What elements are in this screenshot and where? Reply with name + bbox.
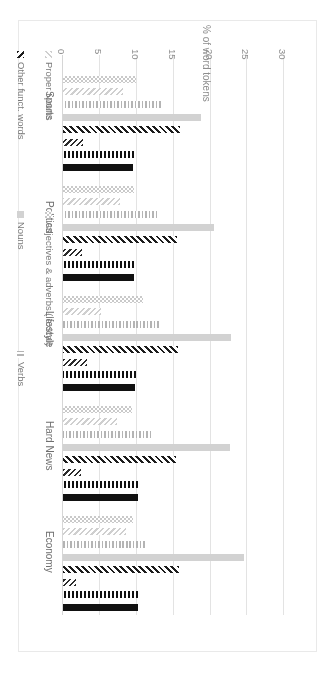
bar	[63, 541, 145, 548]
legend-label: Nouns	[16, 222, 27, 249]
bar	[63, 591, 138, 598]
bar	[63, 528, 126, 535]
bar	[63, 308, 101, 315]
plot-area: 051015202530% of word tokensEconomyHard …	[17, 19, 316, 651]
bar	[63, 151, 134, 158]
legend-item[interactable]: Verbs	[16, 351, 27, 386]
bar	[63, 456, 176, 463]
chart-figure: 051015202530% of word tokensEconomyHard …	[0, 0, 335, 674]
bar	[63, 469, 81, 476]
bar	[63, 418, 117, 425]
bar	[63, 139, 83, 146]
axis-tick-label: 0	[56, 49, 67, 54]
gridline-30	[283, 55, 284, 615]
category-label-hard-news: Hard News	[44, 421, 55, 470]
legend-item[interactable]: Nouns	[16, 211, 27, 249]
bar	[63, 101, 161, 108]
category-label-economy: Economy	[44, 531, 55, 573]
legend-item[interactable]: Adjectives & adverbs (lexical)	[44, 211, 55, 346]
bar	[63, 444, 230, 451]
bar	[63, 114, 201, 121]
legend-label: Proper Nouns	[44, 62, 55, 121]
bar	[63, 554, 244, 561]
bar	[63, 88, 123, 95]
bar	[63, 384, 135, 391]
legend-item[interactable]: Proper Nouns	[44, 51, 55, 121]
legend-item[interactable]: Other funct. words	[16, 51, 27, 140]
plot-frame: 051015202530% of word tokensEconomyHard …	[18, 20, 317, 652]
legend-label: Verbs	[16, 362, 27, 386]
legend-swatch-icon	[17, 51, 24, 58]
bar	[63, 431, 151, 438]
axis-tick-label: 15	[167, 49, 178, 60]
bar	[63, 346, 178, 353]
bar	[63, 198, 120, 205]
bar	[63, 126, 180, 133]
axis-tick-label: 5	[93, 49, 104, 54]
bar	[63, 76, 136, 83]
bar	[63, 604, 138, 611]
bar	[63, 224, 214, 231]
axis-tick-label: 30	[277, 49, 288, 60]
bar	[63, 321, 159, 328]
bar	[63, 164, 133, 171]
legend-label: Adjectives & adverbs (lexical)	[44, 222, 55, 346]
bar	[63, 481, 138, 488]
bar	[63, 371, 136, 378]
legend-swatch-icon	[45, 211, 52, 218]
bar	[63, 249, 82, 256]
bar	[63, 494, 138, 501]
axis-tick-label: 25	[241, 49, 252, 60]
bar	[63, 296, 143, 303]
gridline-25	[247, 55, 248, 615]
bar	[63, 211, 157, 218]
legend-swatch-icon	[17, 351, 24, 358]
bar	[63, 274, 134, 281]
legend-swatch-icon	[45, 51, 52, 58]
bar	[63, 359, 87, 366]
bar	[63, 261, 134, 268]
bar	[63, 406, 132, 413]
legend-swatch-icon	[17, 211, 24, 218]
bar	[63, 186, 134, 193]
axis-tick-label: 10	[130, 49, 141, 60]
bar	[63, 236, 177, 243]
legend-label: Other funct. words	[16, 62, 27, 140]
bar	[63, 516, 133, 523]
bar	[63, 334, 231, 341]
y-axis-title: % of word tokens	[201, 25, 212, 102]
bar	[63, 579, 76, 586]
bar	[63, 566, 179, 573]
